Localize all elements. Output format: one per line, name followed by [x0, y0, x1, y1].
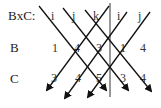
header-cell: j [137, 9, 141, 23]
row-label-b: B [10, 40, 19, 55]
b-cell: 1 [52, 41, 58, 55]
row-label-c: C [10, 71, 19, 86]
b-cell: 4 [140, 41, 146, 55]
cross-product-diagram: BxC: B C i j k i j 1 4 3 1 4 3 4 5 3 4 [0, 0, 161, 108]
bxc-label: BxC: [8, 8, 35, 23]
